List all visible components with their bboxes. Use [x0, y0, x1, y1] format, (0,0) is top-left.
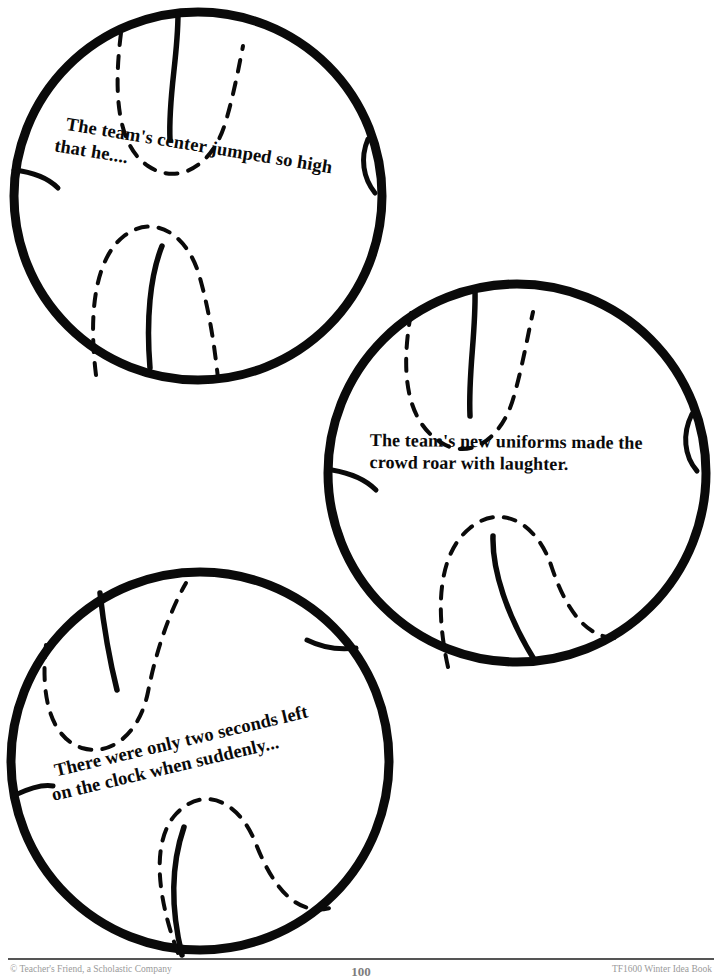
story-starter-text-3: There were only two seconds left on the …: [52, 701, 315, 804]
seam-right-solid: [307, 640, 356, 649]
cut-line-upper-dashed: [45, 583, 187, 750]
story-starter-text-1: The team's center jumped so high that he…: [61, 113, 334, 201]
cut-line-lower-dashed: [93, 227, 218, 378]
seam-right-solid: [686, 414, 697, 471]
seam-left-solid: [14, 170, 58, 188]
story-starter-line: The team's new uniforms made the: [370, 430, 643, 455]
footer-divider: [8, 958, 714, 960]
seam-left-solid: [15, 785, 53, 795]
worksheet-page: The team's center jumped so high that he…: [0, 0, 722, 977]
footer-product-code: TF1600 Winter Idea Book: [612, 964, 712, 974]
cut-line-lower-dashed: [441, 517, 620, 667]
basketball-2: [328, 284, 706, 667]
seam-top-solid: [470, 290, 475, 416]
seam-bottom-solid: [493, 536, 535, 661]
story-starter-line: crowd roar with laughter.: [370, 452, 643, 477]
cut-line-upper-dashed: [406, 312, 533, 449]
story-starter-text-2: The team's new uniforms made the crowd r…: [370, 430, 643, 477]
seam-right-solid: [364, 139, 375, 193]
seam-top-solid: [100, 593, 117, 690]
seam-bottom-solid: [149, 246, 163, 368]
cut-line-lower-dashed: [160, 799, 330, 953]
seam-bottom-solid: [174, 827, 184, 955]
seam-top-solid: [170, 14, 178, 140]
